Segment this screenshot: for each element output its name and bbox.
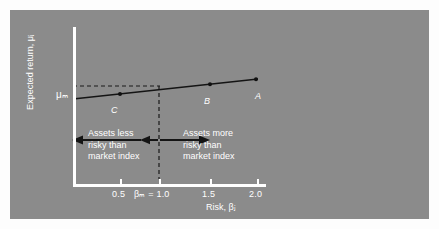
annotation-assets-more-risky: Assets more risky than market index: [183, 128, 235, 163]
y-tick-label-mu-m: μₘ: [56, 89, 68, 100]
x-tick-1-5: [210, 179, 212, 184]
x-tick-label-2-0: 2.0: [249, 189, 262, 199]
security-market-line: [73, 79, 258, 99]
x-axis-label: Risk, βⱼ: [206, 202, 236, 212]
x-tick-2-0: [257, 179, 259, 184]
x-axis-line: [73, 184, 266, 187]
x-tick-1-0: [159, 179, 161, 184]
x-tick-0-5: [120, 179, 122, 184]
point-label-c: C: [111, 105, 118, 115]
chart-panel: 0.5 βₘ = 1.0 1.5 2.0 μₘ Expected return,…: [10, 10, 429, 219]
annotation-line-1: Assets less: [88, 128, 140, 140]
annotation-line-3: market index: [88, 151, 140, 163]
x-tick-label-0-5: 0.5: [112, 189, 125, 199]
annotation-line-2: risky than: [88, 140, 140, 152]
data-point-b: [208, 82, 212, 86]
point-label-b: B: [204, 96, 210, 106]
annotation-assets-less-risky: Assets less risky than market index: [88, 128, 140, 163]
annotation-line-3: market index: [183, 151, 235, 163]
annotation-line-1: Assets more: [183, 128, 235, 140]
data-point-c: [118, 92, 122, 96]
annotation-line-2: risky than: [183, 140, 235, 152]
y-axis-line: [73, 27, 76, 187]
x-tick-label-beta-m: βₘ = 1.0: [134, 189, 170, 199]
x-tick-label-1-5: 1.5: [202, 189, 215, 199]
data-point-a: [254, 77, 258, 81]
chart-figure: 0.5 βₘ = 1.0 1.5 2.0 μₘ Expected return,…: [0, 0, 439, 229]
arrow-toward-market-left: [140, 136, 158, 144]
point-label-a: A: [255, 91, 261, 101]
y-axis-label: Expected return, μⱼ: [25, 22, 35, 122]
